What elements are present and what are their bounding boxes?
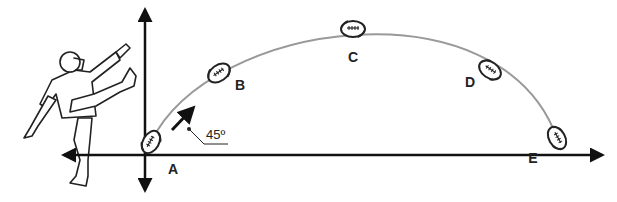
- kicker-figure: [24, 44, 136, 186]
- football-icon-d: [476, 57, 505, 84]
- point-label-a: A: [168, 161, 178, 177]
- point-label-b: B: [235, 77, 245, 93]
- point-label-c: C: [348, 49, 358, 65]
- football-icon-b: [205, 60, 234, 87]
- football-icon-e: [544, 124, 570, 153]
- velocity-arrow: [172, 108, 193, 130]
- football-icon-a: [138, 128, 164, 157]
- point-label-d: D: [465, 74, 475, 90]
- point-label-e: E: [528, 150, 537, 166]
- projectile-diagram: 45º A B C D E: [0, 0, 617, 202]
- angle-label: 45º: [206, 127, 225, 142]
- football-icon-c: [341, 21, 365, 37]
